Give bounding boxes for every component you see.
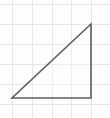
right-triangle-shape bbox=[12, 24, 91, 98]
graph-paper-figure bbox=[0, 0, 110, 118]
triangle-layer bbox=[0, 0, 110, 118]
